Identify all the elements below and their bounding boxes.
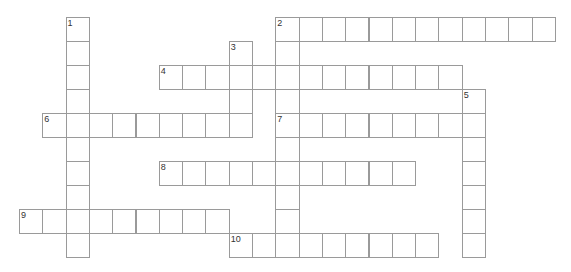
crossword-cell[interactable] — [462, 137, 486, 162]
crossword-cell[interactable] — [369, 161, 393, 186]
crossword-cell[interactable] — [66, 137, 90, 162]
crossword-cell[interactable]: 5 — [462, 89, 486, 114]
crossword-cell[interactable] — [112, 113, 136, 138]
crossword-cell[interactable] — [415, 17, 439, 42]
crossword-cell[interactable] — [415, 65, 439, 90]
crossword-cell[interactable] — [415, 113, 439, 138]
clue-number: 2 — [277, 18, 282, 28]
crossword-cell[interactable] — [66, 185, 90, 210]
crossword-cell[interactable] — [229, 89, 253, 114]
crossword-cell[interactable] — [392, 17, 416, 42]
crossword-cell[interactable] — [322, 161, 346, 186]
crossword-cell[interactable] — [159, 209, 183, 234]
crossword-cell[interactable] — [66, 233, 90, 258]
crossword-cell[interactable] — [392, 113, 416, 138]
crossword-cell[interactable] — [205, 65, 229, 90]
crossword-cell[interactable] — [392, 233, 416, 258]
clue-number: 7 — [277, 114, 282, 124]
crossword-cell[interactable] — [275, 233, 299, 258]
crossword-cell[interactable] — [462, 185, 486, 210]
crossword-cell[interactable] — [89, 113, 113, 138]
crossword-cell[interactable]: 1 — [66, 17, 90, 42]
crossword-cell[interactable] — [462, 209, 486, 234]
crossword-cell[interactable] — [275, 65, 299, 90]
crossword-cell[interactable] — [252, 233, 276, 258]
crossword-cell[interactable]: 3 — [229, 41, 253, 66]
crossword-cell[interactable] — [345, 113, 369, 138]
crossword-cell[interactable] — [369, 113, 393, 138]
clue-number: 8 — [161, 162, 166, 172]
crossword-cell[interactable] — [275, 161, 299, 186]
clue-number: 1 — [68, 18, 73, 28]
crossword-cell[interactable] — [229, 65, 253, 90]
crossword-cell[interactable] — [229, 113, 253, 138]
crossword-cell[interactable] — [369, 233, 393, 258]
crossword-cell[interactable]: 10 — [229, 233, 253, 258]
crossword-cell[interactable] — [66, 113, 90, 138]
crossword-cell[interactable] — [369, 65, 393, 90]
crossword-cell[interactable] — [136, 209, 160, 234]
crossword-cell[interactable] — [345, 17, 369, 42]
crossword-cell[interactable] — [205, 209, 229, 234]
crossword-cell[interactable] — [275, 41, 299, 66]
crossword-cell[interactable] — [275, 185, 299, 210]
crossword-cell[interactable] — [299, 65, 323, 90]
crossword-cell[interactable]: 6 — [42, 113, 66, 138]
clue-number: 9 — [21, 210, 26, 220]
crossword-cell[interactable] — [415, 233, 439, 258]
crossword-cell[interactable] — [252, 161, 276, 186]
crossword-cell[interactable] — [462, 17, 486, 42]
crossword-cell[interactable] — [112, 209, 136, 234]
crossword-cell[interactable] — [438, 113, 462, 138]
crossword-cell[interactable] — [66, 209, 90, 234]
crossword-cell[interactable] — [299, 161, 323, 186]
crossword-cell[interactable] — [462, 233, 486, 258]
crossword-cell[interactable] — [322, 113, 346, 138]
crossword-cell[interactable] — [205, 161, 229, 186]
crossword-cell[interactable]: 4 — [159, 65, 183, 90]
crossword-cell[interactable] — [136, 113, 160, 138]
crossword-cell[interactable] — [369, 17, 393, 42]
crossword-cell[interactable] — [438, 17, 462, 42]
crossword-cell[interactable] — [322, 17, 346, 42]
crossword-cell[interactable] — [345, 233, 369, 258]
crossword-cell[interactable] — [182, 113, 206, 138]
crossword-cell[interactable] — [159, 113, 183, 138]
crossword-cell[interactable] — [66, 65, 90, 90]
clue-number: 4 — [161, 66, 166, 76]
crossword-cell[interactable] — [299, 17, 323, 42]
crossword-cell[interactable] — [275, 137, 299, 162]
crossword-cell[interactable] — [462, 113, 486, 138]
crossword-cell[interactable] — [345, 65, 369, 90]
crossword-cell[interactable] — [532, 17, 556, 42]
crossword-cell[interactable] — [42, 209, 66, 234]
crossword-cell[interactable] — [89, 209, 113, 234]
crossword-cell[interactable] — [392, 65, 416, 90]
crossword-cell[interactable] — [508, 17, 532, 42]
crossword-cell[interactable] — [345, 161, 369, 186]
crossword-cell[interactable] — [182, 161, 206, 186]
crossword-cell[interactable] — [66, 89, 90, 114]
crossword-cell[interactable] — [462, 161, 486, 186]
crossword-cell[interactable] — [252, 65, 276, 90]
crossword-cell[interactable]: 9 — [19, 209, 43, 234]
crossword-cell[interactable] — [485, 17, 509, 42]
crossword-cell[interactable] — [275, 209, 299, 234]
crossword-cell[interactable] — [392, 161, 416, 186]
crossword-cell[interactable]: 7 — [275, 113, 299, 138]
crossword-cell[interactable] — [182, 65, 206, 90]
crossword-cell[interactable] — [438, 65, 462, 90]
crossword-grid: 12734568910 — [0, 0, 571, 272]
crossword-cell[interactable] — [299, 113, 323, 138]
crossword-cell[interactable] — [299, 233, 323, 258]
crossword-cell[interactable]: 8 — [159, 161, 183, 186]
crossword-cell[interactable] — [182, 209, 206, 234]
crossword-cell[interactable] — [275, 89, 299, 114]
crossword-cell[interactable] — [322, 233, 346, 258]
crossword-cell[interactable] — [229, 161, 253, 186]
crossword-cell[interactable]: 2 — [275, 17, 299, 42]
crossword-cell[interactable] — [66, 161, 90, 186]
crossword-cell[interactable] — [66, 41, 90, 66]
crossword-cell[interactable] — [205, 113, 229, 138]
crossword-cell[interactable] — [322, 65, 346, 90]
